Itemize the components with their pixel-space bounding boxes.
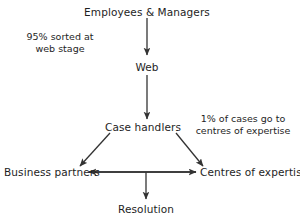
node-web: Web <box>135 61 158 73</box>
annotation-centres-cases: 1% of cases go to centres of expertise <box>196 113 291 137</box>
annotation-centres-cases-line2: centres of expertise <box>196 125 291 137</box>
annotation-centres-cases-line1: 1% of cases go to <box>196 113 291 125</box>
process-flow-diagram: Employees & Managers Web Case handlers B… <box>0 0 300 222</box>
annotation-web-stage: 95% sorted at web stage <box>27 31 94 55</box>
annotation-web-stage-line2: web stage <box>27 43 94 55</box>
node-centres-of-expertise: Centres of expertise <box>200 166 300 178</box>
annotation-web-stage-line1: 95% sorted at <box>27 31 94 43</box>
node-resolution: Resolution <box>118 203 174 215</box>
arrow-case-handlers-to-business-partners <box>80 133 110 166</box>
node-business-partners: Business partners <box>4 166 100 178</box>
node-case-handlers: Case handlers <box>105 121 181 133</box>
arrow-case-handlers-to-centres <box>176 133 203 166</box>
node-employees-managers: Employees & Managers <box>84 6 210 18</box>
